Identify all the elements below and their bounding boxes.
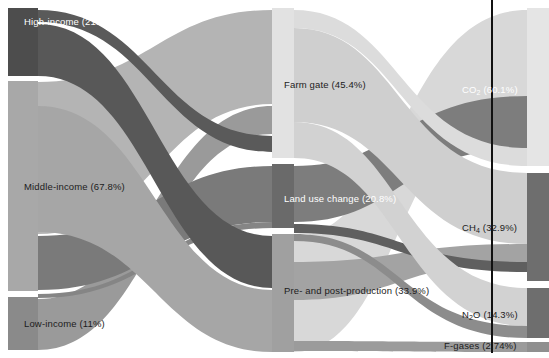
node-group-left (8, 8, 38, 350)
node-land-use-change[interactable] (272, 164, 294, 228)
sankey-canvas (0, 0, 549, 358)
node-high-income[interactable] (8, 8, 38, 76)
node-middle-income[interactable] (8, 81, 38, 291)
node-farm-gate[interactable] (272, 8, 294, 158)
node-pre-post-production[interactable] (272, 234, 294, 352)
node-f-gases[interactable] (527, 342, 549, 352)
node-group-middle (272, 8, 294, 352)
node-low-income[interactable] (8, 297, 38, 350)
node-n2o[interactable] (527, 288, 549, 338)
sankey-figure: High-income (21.2%) Middle-income (67.8%… (0, 0, 549, 358)
node-group-right (527, 8, 549, 352)
flow-group-left-to-middle (38, 10, 272, 352)
node-ch4[interactable] (527, 173, 549, 281)
node-co2[interactable] (527, 8, 549, 166)
